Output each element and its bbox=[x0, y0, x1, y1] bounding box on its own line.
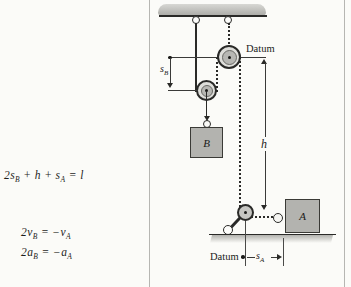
figure-left-border bbox=[149, 0, 150, 287]
h-dim-line-lower bbox=[265, 151, 266, 206]
datum-bottom-label: Datum bbox=[210, 251, 239, 262]
sa-dim-arrow bbox=[277, 254, 282, 260]
equation-velocity: 2vB = −vA bbox=[21, 226, 71, 241]
cord-fixed-to-floor-pulley bbox=[239, 57, 241, 207]
datum-top-label: Datum bbox=[246, 43, 275, 54]
ceiling-hatch bbox=[158, 4, 266, 15]
sa-dim-label: sA bbox=[256, 250, 264, 264]
sa-dim-dot bbox=[241, 255, 245, 259]
sb-dim-arrow bbox=[167, 83, 173, 88]
h-dim-line-upper bbox=[265, 63, 266, 137]
block-a: A bbox=[285, 199, 320, 233]
block-a-label: A bbox=[299, 210, 306, 222]
equation-position: 2sB + h + sA = l bbox=[4, 169, 84, 184]
sb-dim-line bbox=[170, 58, 171, 84]
sa-extension-line-right bbox=[283, 238, 284, 266]
textbook-figure-pulley-system: 2sB + h + sA = l 2vB = −vA 2aB = −aA Dat… bbox=[0, 0, 351, 287]
sb-dim-label: sB bbox=[160, 63, 168, 77]
sb-helper-line bbox=[168, 90, 198, 91]
ground-hatch bbox=[210, 235, 333, 243]
sa-extension-line-left bbox=[245, 221, 246, 266]
ceiling-line bbox=[159, 15, 267, 17]
cord-floor-pulley-to-block-a bbox=[251, 216, 273, 218]
link-pulley-to-block-b bbox=[206, 91, 208, 118]
block-b-label: B bbox=[203, 137, 210, 149]
block-b: B bbox=[190, 127, 223, 158]
pulley-hub-dot bbox=[228, 56, 231, 59]
pulley-hub-dot bbox=[244, 211, 247, 214]
h-dim-label: h bbox=[261, 137, 267, 152]
h-dim-arrow-down bbox=[261, 205, 267, 210]
block-a-ring-icon bbox=[273, 213, 283, 223]
equation-acceleration: 2aB = −aA bbox=[21, 246, 72, 261]
sa-dim-line-left bbox=[247, 257, 255, 258]
figure-right-border bbox=[344, 0, 345, 287]
